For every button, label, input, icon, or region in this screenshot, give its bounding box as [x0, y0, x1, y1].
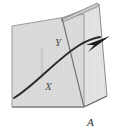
geometry-figure: Y X A	[0, 0, 119, 134]
figure-canvas	[0, 0, 119, 134]
plane-y-label: Y	[55, 37, 61, 48]
figure-caption-label: A	[87, 117, 94, 128]
plane-x-label: X	[45, 81, 52, 92]
